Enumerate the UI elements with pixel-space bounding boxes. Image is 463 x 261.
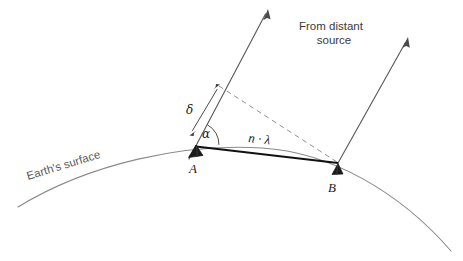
station-a-label: A xyxy=(188,161,197,176)
baseline-segment xyxy=(196,147,338,164)
source-label-line2: source xyxy=(317,34,352,46)
geometry-diagram: From distant source Earth's surface n · … xyxy=(0,0,463,261)
ray-b-arrowhead-icon xyxy=(402,37,410,48)
station-b-label: B xyxy=(328,180,336,195)
delta-arrowhead-lower-icon xyxy=(190,131,197,137)
delta-arrowhead-upper-icon xyxy=(213,84,220,90)
elevation-angle-label: α xyxy=(202,127,210,141)
path-difference-label: δ xyxy=(186,103,193,117)
diagram-canvas: From distant source Earth's surface n · … xyxy=(0,0,463,261)
earth-surface-label: Earth's surface xyxy=(25,148,102,182)
incoming-ray-b xyxy=(338,43,406,164)
baseline-length-label: n · λ xyxy=(248,130,272,147)
ray-a-arrowhead-icon xyxy=(263,9,270,20)
delta-measure-line xyxy=(193,90,218,131)
source-label-line1: From distant xyxy=(299,20,364,32)
